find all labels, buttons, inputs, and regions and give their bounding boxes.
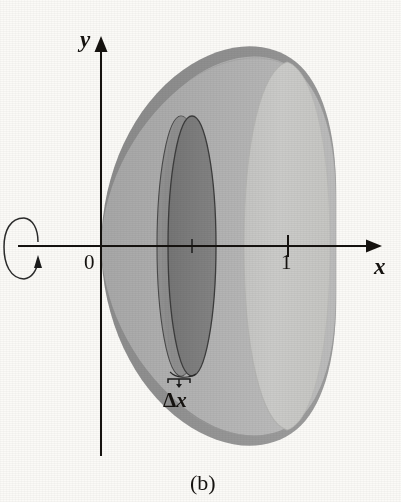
rotation-arrow-icon xyxy=(4,218,42,279)
figure-caption: (b) xyxy=(190,472,216,494)
delta-x-label: Δx xyxy=(163,390,187,411)
delta-symbol: Δ xyxy=(163,388,176,412)
delta-x-variable: x xyxy=(176,388,187,412)
y-axis-arrowhead xyxy=(95,36,108,52)
x-axis-label: x xyxy=(374,255,386,278)
x-tick-label-one: 1 xyxy=(281,252,292,273)
figure-container: y x 0 1 Δx (b) xyxy=(0,0,401,502)
y-axis-label: y xyxy=(80,28,90,51)
x-axis-arrowhead xyxy=(366,240,382,253)
solid-of-revolution-figure xyxy=(0,0,401,502)
origin-label: 0 xyxy=(84,252,95,273)
